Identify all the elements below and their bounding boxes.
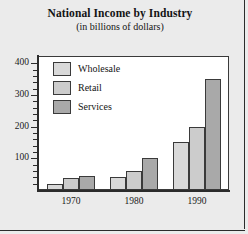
- y-axis-label: 400: [3, 58, 29, 67]
- bar-services-1970: [79, 176, 95, 190]
- y-tick-minor: [33, 184, 37, 185]
- y-axis-label: 200: [3, 122, 29, 131]
- y-tick-minor: [33, 82, 37, 83]
- legend-swatch-icon: [53, 81, 71, 95]
- y-tick-minor: [33, 133, 37, 134]
- bar-retail-1970: [63, 178, 79, 190]
- y-tick-minor: [33, 101, 37, 102]
- y-tick-minor: [33, 70, 37, 71]
- x-axis-line: [37, 190, 230, 192]
- y-tick-minor: [33, 76, 37, 77]
- y-tick-major: [31, 158, 37, 159]
- bar-services-1980: [142, 158, 158, 190]
- y-axis-label: 100: [3, 153, 29, 162]
- chart-legend: WholesaleRetailServices: [53, 60, 120, 117]
- y-tick-minor: [33, 120, 37, 121]
- bar-services-1990: [205, 79, 221, 190]
- bar-wholesale-1970: [47, 184, 63, 190]
- bar-wholesale-1980: [110, 177, 126, 190]
- y-tick-major: [31, 127, 37, 128]
- y-tick-major: [31, 63, 37, 64]
- bar-retail-1990: [189, 127, 205, 190]
- legend-item-label: Retail: [78, 82, 102, 93]
- y-tick-major: [31, 95, 37, 96]
- chart-figure: National Income by Industry (in billions…: [0, 0, 248, 234]
- x-axis-label: 1980: [114, 196, 154, 206]
- y-axis-label: 300: [3, 90, 29, 99]
- y-tick-minor: [33, 177, 37, 178]
- y-tick-minor: [33, 114, 37, 115]
- y-tick-minor: [33, 139, 37, 140]
- chart-title: National Income by Industry: [0, 7, 240, 20]
- y-tick-minor: [33, 146, 37, 147]
- y-tick-minor: [33, 152, 37, 153]
- plate-border-bottom: [0, 230, 245, 231]
- y-tick-minor: [33, 108, 37, 109]
- legend-item-label: Wholesale: [78, 63, 120, 74]
- legend-swatch-icon: [53, 62, 71, 76]
- chart-subtitle: (in billions of dollars): [0, 20, 240, 33]
- legend-item-label: Services: [78, 101, 112, 112]
- bar-retail-1980: [126, 171, 142, 190]
- x-axis-label: 1990: [177, 196, 217, 206]
- legend-item-services: Services: [53, 98, 120, 115]
- y-tick-minor: [33, 89, 37, 90]
- legend-item-wholesale: Wholesale: [53, 60, 120, 77]
- chart-title-block: National Income by Industry (in billions…: [0, 7, 240, 33]
- x-axis-label: 1970: [51, 196, 91, 206]
- y-tick-minor: [33, 171, 37, 172]
- y-tick-minor: [33, 165, 37, 166]
- legend-swatch-icon: [53, 100, 71, 114]
- legend-item-retail: Retail: [53, 79, 120, 96]
- plate-border-right: [244, 0, 245, 229]
- bar-wholesale-1990: [173, 142, 189, 190]
